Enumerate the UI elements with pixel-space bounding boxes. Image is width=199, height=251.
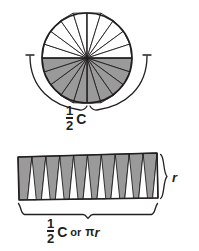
circumference-symbol: C <box>76 112 86 126</box>
fraction-one-half: 1 2 <box>66 105 73 132</box>
bottom-brace-path <box>19 204 158 219</box>
sector-circle-group <box>42 13 132 103</box>
figure-canvas <box>0 0 199 251</box>
or-conjunction: or <box>70 227 81 238</box>
radius-brace <box>161 155 168 199</box>
circle-to-rectangle-figure: 1 2 C 1 2 Corπr r <box>0 0 199 251</box>
pi-symbol: π <box>85 226 94 238</box>
fraction-numerator: 1 <box>66 105 73 116</box>
fraction-denominator: 2 <box>66 120 73 132</box>
fraction-one-half: 1 2 <box>47 218 54 245</box>
radius-symbol: r <box>95 226 100 239</box>
radius-brace-path <box>161 155 168 199</box>
fraction-numerator: 1 <box>47 218 54 229</box>
radius-label: r <box>172 171 177 184</box>
half-circumference-or-pi-r-label: 1 2 Corπr <box>47 219 100 246</box>
half-circumference-label: 1 2 C <box>66 106 86 133</box>
rearranged-sectors-rectangle <box>18 153 158 200</box>
circumference-symbol: C <box>57 225 67 239</box>
half-circumference-or-pi-r-brace <box>19 204 158 219</box>
fraction-denominator: 2 <box>47 233 54 245</box>
